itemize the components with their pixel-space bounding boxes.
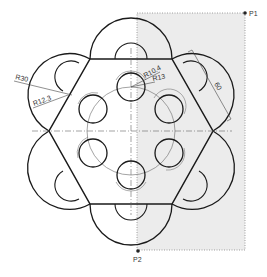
drawing-canvas[interactable]: R30 R12.3 R10.4 R13 60 P1 P2	[0, 0, 267, 277]
p1-label: P1	[249, 10, 258, 17]
selection-rectangle[interactable]	[137, 13, 245, 250]
p2-marker[interactable]	[136, 249, 140, 253]
p2-label: P2	[133, 256, 142, 263]
technical-drawing: R30 R12.3 R10.4 R13 60 P1 P2	[0, 0, 267, 277]
p1-marker[interactable]	[243, 11, 247, 15]
dim-r12-3-label: R12.3	[32, 94, 52, 107]
